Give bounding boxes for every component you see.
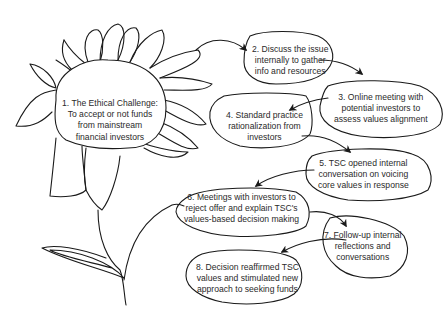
node-1-label: 1. The Ethical Challenge: To accept or n… [62,98,158,143]
node-6-label: 6. Meetings with investors to reject off… [184,192,299,226]
flower-diagram: 1. The Ethical Challenge: To accept or n… [0,0,447,316]
node-7-label: 7. Follow-up internal reflections and co… [324,230,401,264]
node-4-label: 4. Standard practice rationalization fro… [226,110,303,144]
node-8-label: 8. Decision reaffirmed TSC values and st… [196,262,299,296]
node-2-label: 2. Discuss the issue internally to gathe… [252,44,328,78]
stem-icon [42,204,184,305]
arrow-1-2 [196,40,246,50]
node-5-label: 5. TSC opened internal conversation on v… [318,158,409,192]
node-3-label: 3. Online meeting with potential investo… [334,92,428,126]
arrow-3-4 [290,98,328,110]
arrow-6-7 [310,212,346,226]
arrow-5-6 [256,170,314,186]
